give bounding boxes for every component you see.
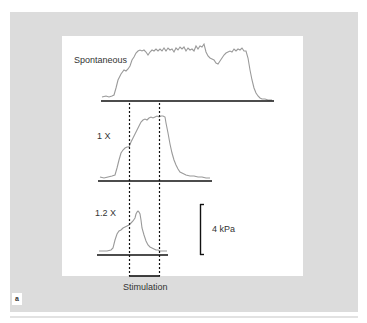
1x-label: 1 X [97, 131, 111, 141]
1x-trace [100, 116, 210, 178]
panel-label: a [12, 293, 22, 305]
1-2x-label: 1.2 X [95, 208, 116, 218]
scale-bar [200, 204, 204, 255]
stimulation-label: Stimulation [123, 282, 168, 292]
pressure-traces-diagram [0, 0, 367, 323]
scale-bar-label: 4 kPa [212, 224, 235, 234]
spontaneous-trace [102, 44, 272, 100]
spontaneous-label: Spontaneous [74, 55, 127, 65]
